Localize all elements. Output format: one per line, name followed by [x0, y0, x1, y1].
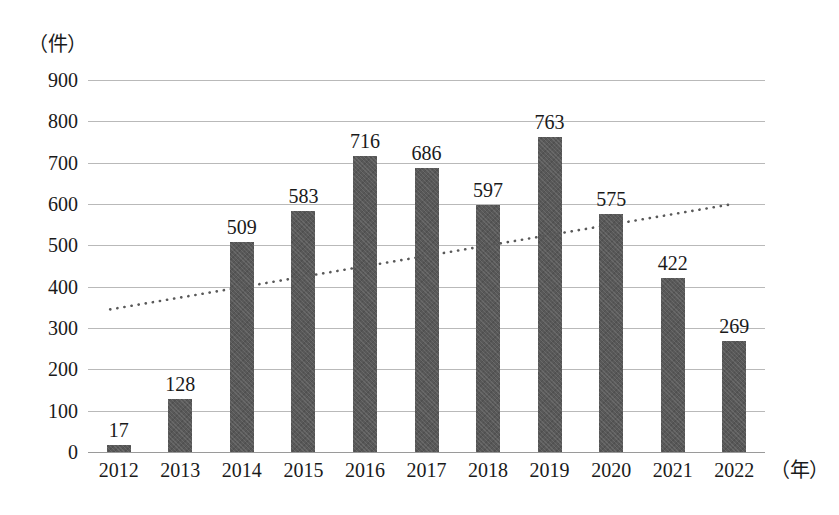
y-tick-label: 300	[20, 318, 78, 338]
bar	[353, 156, 377, 452]
bar-value-label: 583	[288, 186, 318, 206]
y-tick-label: 500	[20, 235, 78, 255]
bar-value-label: 269	[719, 316, 749, 336]
x-tick-label: 2016	[345, 458, 385, 482]
x-tick-label: 2018	[468, 458, 508, 482]
x-tick-label: 2013	[160, 458, 200, 482]
bar	[291, 211, 315, 452]
bar	[722, 341, 746, 452]
bar-value-label: 597	[473, 180, 503, 200]
bar	[599, 214, 623, 452]
y-tick-label: 800	[20, 111, 78, 131]
bar	[168, 399, 192, 452]
gridline	[88, 121, 765, 122]
x-tick-label: 2017	[407, 458, 447, 482]
x-axis-unit-label: （年）	[770, 458, 829, 482]
x-tick-label: 2014	[222, 458, 262, 482]
bar-value-label: 763	[535, 112, 565, 132]
x-tick-label: 2021	[653, 458, 693, 482]
axis-baseline	[88, 452, 765, 453]
x-axis-tick-labels: 2012201320142015201620172018201920202021…	[88, 458, 765, 488]
y-tick-label: 600	[20, 194, 78, 214]
bar-value-label: 128	[165, 374, 195, 394]
gridline	[88, 80, 765, 81]
bar	[107, 445, 131, 452]
y-axis-tick-labels: 0100200300400500600700800900	[20, 80, 78, 452]
x-tick-label: 2012	[99, 458, 139, 482]
bar-value-label: 422	[658, 253, 688, 273]
bar-value-label: 509	[227, 217, 257, 237]
bar	[230, 242, 254, 452]
y-tick-label: 200	[20, 359, 78, 379]
bar	[415, 168, 439, 452]
bar	[476, 205, 500, 452]
y-tick-label: 0	[20, 442, 78, 462]
x-tick-label: 2019	[530, 458, 570, 482]
y-tick-label: 900	[20, 70, 78, 90]
x-tick-label: 2022	[714, 458, 754, 482]
bar	[538, 137, 562, 452]
bar-value-label: 686	[412, 143, 442, 163]
y-tick-label: 100	[20, 401, 78, 421]
bar	[661, 278, 685, 452]
y-tick-label: 700	[20, 153, 78, 173]
bar-value-label: 575	[596, 189, 626, 209]
plot-area: 17128509583716686597763575422269	[88, 80, 765, 452]
x-tick-label: 2015	[283, 458, 323, 482]
bar-value-label: 17	[109, 420, 129, 440]
y-axis-unit-label: （件）	[28, 28, 87, 57]
bar-chart: （件） 0100200300400500600700800900 1712850…	[0, 0, 839, 515]
bar-value-label: 716	[350, 131, 380, 151]
x-tick-label: 2020	[591, 458, 631, 482]
y-tick-label: 400	[20, 277, 78, 297]
